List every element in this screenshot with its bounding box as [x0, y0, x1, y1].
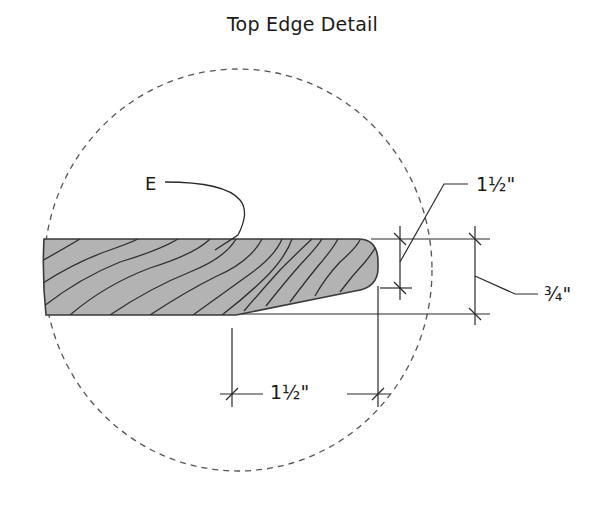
board-thickness-dimension-label: ¾": [544, 285, 571, 304]
taper-length-dimension-label: 1½": [270, 383, 309, 402]
drawing-title: Top Edge Detail: [0, 13, 605, 35]
nose-height-dimension-label: 1½": [476, 175, 515, 194]
top-edge-detail-drawing: [0, 0, 605, 509]
part-e-label: E: [145, 175, 156, 193]
